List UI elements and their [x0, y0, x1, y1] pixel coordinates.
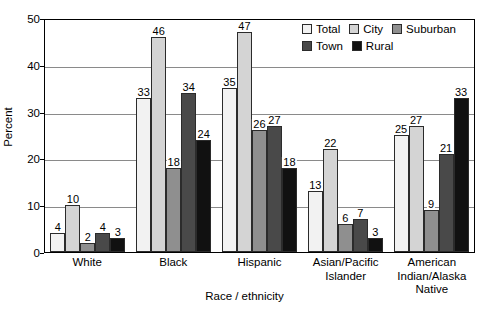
y-axis-tick-50: 50: [16, 13, 40, 25]
y-axis-tick-mark: [40, 113, 44, 114]
y-axis-tick-20: 20: [16, 153, 40, 165]
bar-city-5[interactable]: 27: [409, 126, 424, 252]
legend-item-town[interactable]: Town: [302, 40, 343, 52]
legend-item-rural[interactable]: Rural: [352, 40, 393, 52]
bar-slot: 3: [110, 20, 125, 252]
bar-group-hispanic: 3547262718: [222, 20, 297, 252]
bar-value-label: 9: [427, 199, 435, 210]
bar-value-label: 18: [282, 157, 296, 168]
bar-total-4[interactable]: 13: [308, 191, 323, 252]
bar-rural-1[interactable]: 3: [110, 238, 125, 252]
bar-slot: 2: [80, 20, 95, 252]
legend-row-1: TotalCitySuburban: [302, 21, 474, 36]
bar-town-4[interactable]: 7: [353, 219, 368, 252]
legend-label-town: Town: [316, 40, 343, 52]
bar-value-label: 10: [66, 194, 80, 205]
y-axis-tick-40: 40: [16, 60, 40, 72]
bar-city-1[interactable]: 10: [65, 205, 80, 252]
bar-value-label: 47: [237, 21, 251, 32]
bar-value-label: 35: [222, 77, 236, 88]
y-axis-tick-30: 30: [16, 107, 40, 119]
bar-city-3[interactable]: 47: [237, 32, 252, 252]
legend-swatch-rural: [352, 41, 362, 51]
bar-value-label: 34: [182, 82, 196, 93]
bar-town-2[interactable]: 34: [181, 93, 196, 252]
bar-value-label: 33: [137, 87, 151, 98]
bar-value-label: 26: [252, 119, 266, 130]
bar-slot: 46: [151, 20, 166, 252]
bar-value-label: 22: [323, 138, 337, 149]
legend-label-total: Total: [316, 23, 340, 35]
bar-rural-3[interactable]: 18: [282, 168, 297, 252]
bar-slot: 4: [50, 20, 65, 252]
legend-swatch-town: [302, 41, 312, 51]
legend-swatch-total: [302, 24, 312, 34]
y-axis-tick-10: 10: [16, 200, 40, 212]
bar-slot: 26: [252, 20, 267, 252]
legend-swatch-suburban: [392, 24, 402, 34]
bar-value-label: 24: [197, 129, 211, 140]
bar-value-label: 27: [267, 115, 281, 126]
bar-group-white: 410243: [50, 20, 125, 252]
bar-value-label: 46: [152, 26, 166, 37]
y-axis-tick-mark: [40, 159, 44, 160]
bar-value-label: 27: [409, 115, 423, 126]
bar-suburban-4[interactable]: 6: [338, 224, 353, 252]
bar-slot: 47: [237, 20, 252, 252]
y-axis-title-text: Percent: [2, 107, 14, 147]
legend-item-city[interactable]: City: [349, 23, 383, 35]
bar-value-label: 2: [84, 232, 92, 243]
legend-swatch-city: [349, 24, 359, 34]
bar-rural-4[interactable]: 3: [368, 238, 383, 252]
y-axis-tick-0: 0: [16, 247, 40, 259]
bar-town-1[interactable]: 4: [95, 233, 110, 252]
bar-suburban-1[interactable]: 2: [80, 243, 95, 252]
bar-suburban-3[interactable]: 26: [252, 130, 267, 252]
bar-value-label: 25: [394, 124, 408, 135]
bar-total-2[interactable]: 33: [136, 98, 151, 252]
bar-value-label: 3: [371, 227, 379, 238]
bar-city-2[interactable]: 46: [151, 37, 166, 252]
bar-slot: 33: [136, 20, 151, 252]
bar-slot: 27: [267, 20, 282, 252]
bar-value-label: 7: [356, 208, 364, 219]
bar-slot: 24: [196, 20, 211, 252]
bar-slot: 35: [222, 20, 237, 252]
x-axis-title: Race / ethnicity: [0, 290, 489, 302]
y-axis-tick-mark: [40, 206, 44, 207]
y-axis-tick-labels: 01020304050: [14, 0, 40, 311]
legend-label-rural: Rural: [366, 40, 393, 52]
legend: TotalCitySuburbanTownRural: [302, 21, 474, 55]
bar-value-label: 4: [99, 222, 107, 233]
bar-value-label: 3: [114, 227, 122, 238]
bar-suburban-2[interactable]: 18: [166, 168, 181, 252]
y-axis-tick-mark: [40, 253, 44, 254]
y-axis-tick-mark: [40, 19, 44, 20]
bar-total-3[interactable]: 35: [222, 88, 237, 252]
bar-slot: 18: [166, 20, 181, 252]
bar-total-1[interactable]: 4: [50, 233, 65, 252]
bar-suburban-5[interactable]: 9: [424, 210, 439, 252]
bar-slot: 34: [181, 20, 196, 252]
bar-value-label: 21: [439, 143, 453, 154]
bar-town-5[interactable]: 21: [439, 154, 454, 252]
bar-chart: Percent 01020304050 41024333461834243547…: [0, 0, 489, 311]
legend-item-suburban[interactable]: Suburban: [392, 23, 456, 35]
bar-rural-2[interactable]: 24: [196, 140, 211, 252]
y-axis-tick-mark: [40, 66, 44, 67]
bar-rural-5[interactable]: 33: [454, 98, 469, 252]
legend-label-city: City: [363, 23, 383, 35]
bar-value-label: 18: [167, 157, 181, 168]
bar-slot: 4: [95, 20, 110, 252]
legend-label-suburban: Suburban: [406, 23, 456, 35]
bar-slot: 18: [282, 20, 297, 252]
bar-total-5[interactable]: 25: [394, 135, 409, 252]
bar-value-label: 4: [54, 222, 62, 233]
bar-value-label: 13: [308, 180, 322, 191]
legend-item-total[interactable]: Total: [302, 23, 340, 35]
bar-group-black: 3346183424: [136, 20, 211, 252]
bar-city-4[interactable]: 22: [323, 149, 338, 252]
bar-value-label: 6: [341, 213, 349, 224]
bar-value-label: 33: [454, 87, 468, 98]
bar-town-3[interactable]: 27: [267, 126, 282, 252]
